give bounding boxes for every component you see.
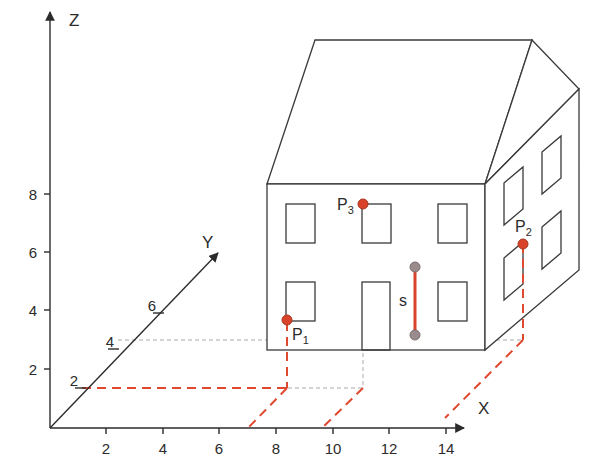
x-tick-label: 14: [438, 440, 455, 457]
house: [267, 40, 579, 350]
y-tick-label: 6: [148, 297, 156, 314]
point-p2-marker: [518, 239, 528, 249]
y-axis: [50, 253, 218, 428]
z-tick-label: 4: [29, 302, 37, 319]
x-tick-labels: 2 4 6 8 10 12 14: [102, 440, 455, 457]
diagram-canvas: s P1 P2 P3 Z X Y: [0, 0, 598, 476]
coordinate-house-diagram: s P1 P2 P3 Z X Y: [0, 0, 598, 476]
y-tick-labels: 2 4 6: [70, 297, 156, 389]
x-tick-label: 8: [272, 440, 280, 457]
x-axis-label: X: [478, 399, 489, 418]
z-tick-label: 8: [29, 186, 37, 203]
point-p1-marker: [282, 315, 292, 325]
segment-s-top-endpoint: [410, 262, 420, 272]
y-tick-label: 2: [70, 372, 78, 389]
x-tick-label: 10: [325, 440, 342, 457]
x-tick-label: 2: [102, 440, 110, 457]
z-tick-label: 2: [29, 361, 37, 378]
y-tick-label: 4: [106, 333, 114, 350]
z-axis-label: Z: [69, 11, 79, 30]
z-tick-label: 6: [29, 244, 37, 261]
z-tick-labels: 2 4 6 8: [29, 186, 37, 378]
y-axis-label: Y: [202, 233, 213, 252]
x-tick-label: 6: [215, 440, 223, 457]
x-tick-label: 4: [159, 440, 167, 457]
proj-p3-to-x: [322, 388, 363, 428]
segment-s-bottom-endpoint: [410, 330, 420, 340]
proj-p1-to-x: [248, 388, 287, 428]
x-tick-label: 12: [381, 440, 398, 457]
segment-s-label: s: [399, 292, 407, 309]
point-p3-marker: [358, 199, 368, 209]
